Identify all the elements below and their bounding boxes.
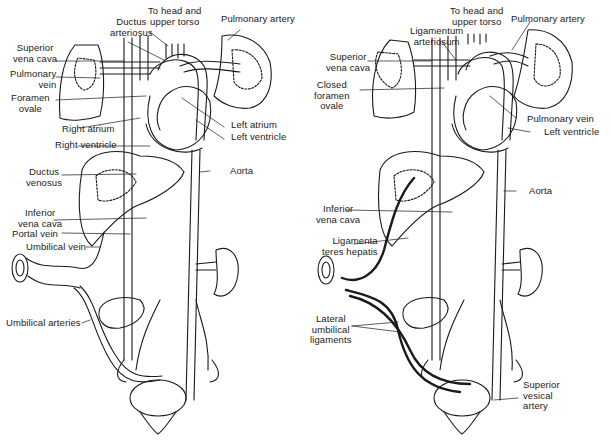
label-closed-foramen-ovale: Closed foramen ovale <box>314 80 350 112</box>
label-right-atrium: Right atrium <box>62 124 114 135</box>
postnatal-panel-drawing <box>318 30 572 434</box>
circulation-drawing <box>0 0 611 441</box>
label-left-atrium: Left atrium <box>231 120 277 131</box>
label-umbilical-arteries: Umbilical arteries <box>6 318 81 329</box>
label-to-head-upper-torso: To head and upper torso <box>148 6 201 27</box>
label-pulmonary-artery: Pulmonary artery <box>221 14 295 25</box>
leader-lines <box>54 22 530 400</box>
label-aorta-postnatal: Aorta <box>529 186 552 197</box>
label-ductus-venosus: Ductus venosus <box>26 167 62 188</box>
label-left-ventricle-postnatal: Left ventricle <box>544 127 599 138</box>
label-superior-vena-cava-postnatal: Superior vena cava <box>326 52 370 73</box>
label-portal-vein: Portal vein <box>12 229 58 240</box>
label-foramen-ovale: Foramen ovale <box>11 93 50 114</box>
label-pulmonary-artery-postnatal: Pulmonary artery <box>511 14 585 25</box>
label-right-ventricle: Right ventricle <box>55 140 117 151</box>
label-pulmonary-vein: Pulmonary vein <box>10 69 56 90</box>
label-aorta: Aorta <box>230 166 253 177</box>
label-ligamentum-arteriosum: Ligamentum arteriosum <box>410 26 463 47</box>
label-lateral-umbilical-ligaments: Lateral umbilical ligaments <box>310 314 352 346</box>
label-superior-vesical-artery: Superior vesical artery <box>523 380 560 412</box>
label-superior-vena-cava: Superior vena cava <box>13 43 57 64</box>
label-ligamenta-teres-hepatis: Ligamenta teres hepatis <box>322 236 378 257</box>
label-umbilical-vein: Umbilical vein <box>26 242 86 253</box>
label-pulmonary-vein-postnatal: Pulmonary vein <box>527 114 594 125</box>
label-inferior-vena-cava: Inferior vena cava <box>18 208 62 229</box>
label-inferior-vena-cava-postnatal: Inferior vena cava <box>316 204 360 225</box>
label-ductus-arteriosus: Ductus arteriosus <box>110 17 153 38</box>
label-to-head-upper-torso-postnatal: To head and upper torso <box>450 6 503 27</box>
label-left-ventricle: Left ventricle <box>231 132 286 143</box>
